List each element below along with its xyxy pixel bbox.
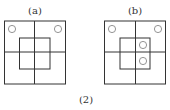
panel-a-label: (a): [28, 5, 42, 16]
panel-b-label: (b): [128, 5, 142, 16]
figure-caption: (2): [79, 94, 93, 105]
circle-marker: [139, 57, 146, 64]
panel-b: [105, 21, 166, 84]
circle-marker: [108, 25, 115, 32]
circle-marker: [8, 25, 15, 32]
diagram-canvas: (a) (b) (2): [0, 0, 170, 110]
panels-group: [5, 21, 166, 84]
circle-marker: [154, 25, 161, 32]
circle-marker: [54, 25, 61, 32]
panel-a: [5, 21, 66, 84]
circle-marker: [139, 41, 146, 48]
